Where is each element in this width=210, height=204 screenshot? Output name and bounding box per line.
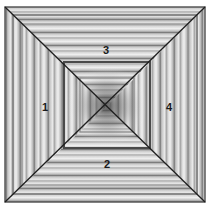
veneer-diagram: 1 2 3 4 [0, 0, 210, 204]
diagram-canvas [0, 0, 210, 204]
section-label-1: 1 [42, 102, 48, 113]
section-label-3: 3 [103, 45, 109, 56]
section-label-4: 4 [166, 102, 172, 113]
section-label-2: 2 [104, 159, 110, 170]
